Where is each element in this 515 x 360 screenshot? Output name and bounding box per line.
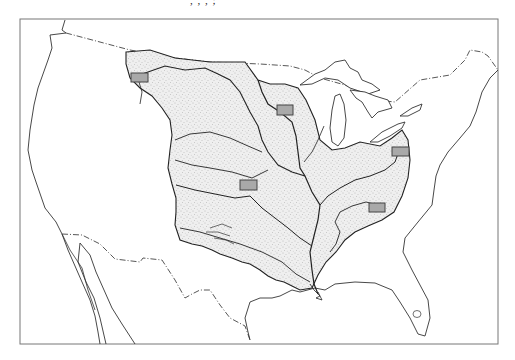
- pacific-coastline: [28, 20, 100, 344]
- lake-michigan: [330, 94, 346, 146]
- study-site-marker: [131, 73, 148, 82]
- lake-okeechobee: [413, 311, 421, 318]
- study-site-marker: [240, 180, 257, 190]
- sonora-coast: [62, 234, 95, 310]
- baja-peninsula: [78, 243, 135, 344]
- mississippi-delta: [310, 284, 322, 300]
- caption-fragment: , , , ;: [190, 0, 217, 6]
- study-site-marker: [392, 147, 409, 156]
- map-figure: , , , ;: [0, 0, 515, 360]
- map-canvas: [0, 0, 515, 360]
- lake-ontario: [400, 104, 422, 116]
- lake-huron: [350, 90, 392, 118]
- study-site-marker: [369, 203, 385, 212]
- lake-superior: [300, 60, 380, 94]
- study-site-marker: [277, 105, 293, 115]
